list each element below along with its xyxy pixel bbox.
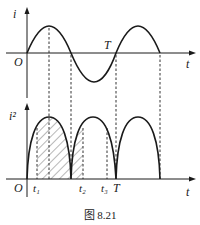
bottom-x-axis-arrow-icon [189,177,196,182]
bottom-origin-label: O [14,181,23,195]
top-x-axis-arrow-icon [189,51,196,56]
top-graph: i O T t [6,7,196,98]
tick-label-t1: t₁ [33,182,40,194]
tick-label-t2: t₂ [79,182,86,194]
figure-canvas: i O T t i² O t₁ t₂ t₃ T t 图 8.21 [0,0,200,225]
bottom-y-label: i² [9,109,16,123]
sine-curve [27,26,160,82]
bottom-y-axis-arrow-icon [25,103,30,110]
figure-caption: 图 8.21 [84,209,117,221]
tick-label-t3: t₃ [101,182,108,194]
top-y-axis-arrow-icon [25,7,30,14]
tick-label-T: T [113,181,121,195]
bottom-graph: i² O t₁ t₂ t₃ T t [6,103,196,199]
top-origin-label: O [14,55,23,69]
top-period-label: T [104,38,112,52]
top-y-label: i [13,7,16,21]
top-x-label: t [186,57,190,71]
bottom-x-label: t [186,185,190,199]
